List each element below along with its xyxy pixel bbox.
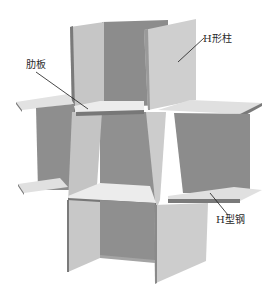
- upper-column-left-flange: [70, 22, 104, 112]
- upper-column-right-flange: [144, 19, 196, 110]
- lower-column-right-flange: [154, 203, 208, 283]
- lower-column-left-flange: [67, 200, 100, 272]
- beam-label: H型钢: [216, 214, 245, 226]
- left-beam-web: [36, 104, 74, 190]
- right-beam-web: [174, 113, 250, 193]
- joint-diagram: [0, 0, 275, 300]
- left-beam: [16, 94, 74, 195]
- stiffener-label: 肋板: [26, 59, 46, 71]
- lower-column-web: [100, 200, 155, 262]
- right-beam: [158, 100, 262, 203]
- lower-column: [67, 200, 208, 284]
- upper-column: [70, 19, 196, 112]
- column-label: H形柱: [203, 33, 232, 45]
